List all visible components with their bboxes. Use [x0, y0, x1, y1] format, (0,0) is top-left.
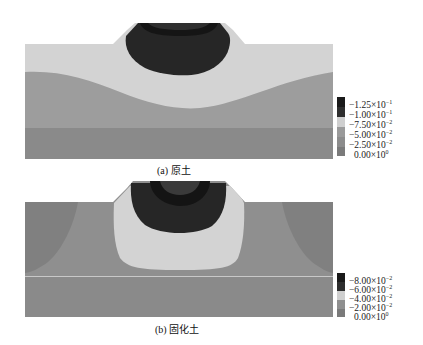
- caption-a: (a) 原土: [157, 162, 191, 177]
- legend-b-item: 0.00×100: [354, 309, 388, 322]
- caption-b: (b) 固化土: [155, 321, 199, 336]
- legend-a-swatches: [337, 97, 345, 156]
- legend-a-item: 0.00×100: [354, 147, 388, 160]
- legend-b-swatches: [337, 273, 345, 317]
